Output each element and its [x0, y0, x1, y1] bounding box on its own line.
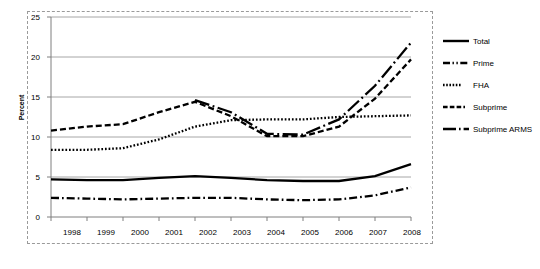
chart-container: Percent 25 20 15 10 5 0 1998 1999 2000 2…: [0, 0, 540, 269]
legend-label: Subprime: [473, 103, 507, 112]
legend-item-fha[interactable]: FHA: [443, 74, 539, 96]
legend-label: FHA: [473, 81, 489, 90]
legend-swatch-subprime-arms: [443, 124, 469, 134]
legend-label: Subprime ARMS: [473, 125, 532, 134]
series-line-total: [51, 164, 411, 181]
legend-swatch-subprime: [443, 102, 469, 112]
series-line-prime: [51, 187, 411, 200]
chart-legend: Total Prime FHA Subprime Subprime ARMS: [443, 30, 539, 140]
legend-item-prime[interactable]: Prime: [443, 52, 539, 74]
legend-swatch-fha: [443, 80, 469, 90]
gridlines: [51, 17, 411, 177]
legend-label: Prime: [473, 59, 494, 68]
legend-item-subprime-arms[interactable]: Subprime ARMS: [443, 118, 539, 140]
legend-label: Total: [473, 37, 490, 46]
series-line-subprime: [51, 59, 411, 136]
legend-swatch-total: [443, 36, 469, 46]
axis-tickmarks: [47, 17, 411, 221]
series-line-fha: [51, 115, 411, 149]
legend-item-total[interactable]: Total: [443, 30, 539, 52]
legend-item-subprime[interactable]: Subprime: [443, 96, 539, 118]
legend-swatch-prime: [443, 58, 469, 68]
